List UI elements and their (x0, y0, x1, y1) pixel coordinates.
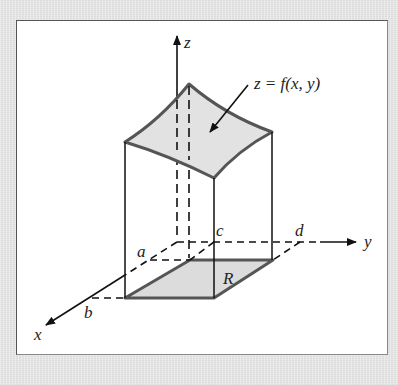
d-label: d (295, 221, 304, 240)
y-axis-label: y (362, 232, 372, 251)
b-label: b (84, 303, 93, 322)
surface-equation-label: z = f(x, y) (253, 74, 321, 93)
region-r (125, 260, 273, 298)
z-axis-label: z (183, 33, 191, 52)
region-r-label: R (222, 269, 234, 288)
x-axis-label: x (33, 325, 42, 344)
c-label: c (216, 221, 224, 240)
surface-patch (125, 84, 272, 178)
diagram-canvas: z z = f(x, y) y x a b c d R (0, 0, 398, 385)
a-label: a (137, 242, 146, 261)
